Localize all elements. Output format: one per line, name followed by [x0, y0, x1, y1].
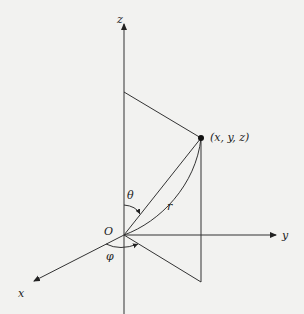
phi-label: φ: [106, 251, 114, 262]
origin-to-projection-line: [124, 235, 201, 282]
origin-label: O: [104, 226, 113, 237]
z-axis-label: z: [117, 14, 123, 25]
theta-arc: [124, 205, 140, 214]
diagram-svg: [0, 0, 304, 314]
spherical-coordinates-diagram: z (x, y, z) θ r O y φ x: [0, 0, 304, 314]
point-label: (x, y, z): [210, 132, 249, 143]
y-axis-label: y: [282, 230, 288, 241]
x-axis-label: x: [18, 288, 24, 299]
theta-label: θ: [127, 190, 134, 201]
z-to-point-line: [124, 92, 201, 138]
point-marker: [198, 135, 204, 141]
radius-line: [124, 138, 201, 235]
phi-arc: [106, 244, 138, 248]
radius-label: r: [167, 201, 172, 212]
